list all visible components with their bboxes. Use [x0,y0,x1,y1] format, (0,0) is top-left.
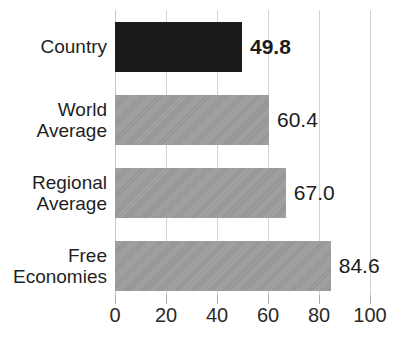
bar-fill-1 [115,95,269,145]
value-label-2: 67.0 [294,168,335,218]
bar-0[interactable] [115,22,242,72]
x-tick-label-100: 100 [353,303,386,327]
category-label-text-0: Country [40,36,107,58]
value-label-0: 49.8 [250,22,291,72]
bar-1[interactable] [115,95,269,145]
category-label-text-3: Free Economies [13,245,107,288]
x-tick-label-80: 80 [308,303,330,327]
bar-3[interactable] [115,241,331,291]
category-label-2: Regional Average [0,168,107,218]
bar-2[interactable] [115,168,286,218]
bar-fill-2 [115,168,286,218]
x-tick-label-60: 60 [257,303,279,327]
category-label-0: Country [0,22,107,72]
plot-area [115,10,370,295]
x-tick-label-20: 20 [155,303,177,327]
bar-fill-3 [115,241,331,291]
bar-fill-0 [115,22,242,72]
x-tick-label-40: 40 [206,303,228,327]
category-label-text-2: Regional Average [32,172,107,215]
value-label-1: 60.4 [277,95,318,145]
category-label-3: Free Economies [0,241,107,291]
x-tick-label-0: 0 [109,303,120,327]
value-label-3: 84.6 [339,241,380,291]
category-label-1: World Average [0,95,107,145]
bar-chart: CountryWorld AverageRegional AverageFree… [0,0,406,360]
category-label-text-1: World Average [37,99,107,142]
